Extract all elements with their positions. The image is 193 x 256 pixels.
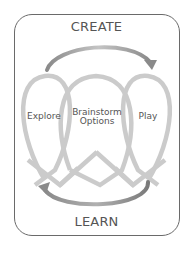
- explore-label: Explore: [22, 112, 66, 121]
- learn-label: LEARN: [0, 215, 193, 229]
- cycle-arrow-top-icon: [47, 47, 157, 70]
- play-label: Play: [128, 112, 168, 121]
- brainstorm-label-line2: Options: [72, 117, 122, 126]
- loop-brainstorm: [61, 76, 131, 185]
- loop-crossings: [28, 152, 165, 185]
- create-label: CREATE: [0, 20, 193, 34]
- brainstorm-label: Brainstorm Options: [72, 108, 122, 127]
